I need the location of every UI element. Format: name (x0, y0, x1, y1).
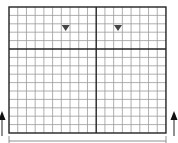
arrow-head (0, 111, 6, 120)
grid-diagram (0, 0, 178, 143)
triangle-marker-icon (114, 25, 122, 31)
triangle-marker-icon (62, 25, 70, 31)
minor-grid-lines (9, 7, 166, 133)
arrow-head (171, 111, 178, 120)
markers (62, 25, 122, 31)
left-up-arrow-icon (0, 111, 6, 136)
bottom-span-bracket (9, 136, 166, 143)
right-up-arrow-icon (171, 111, 178, 136)
